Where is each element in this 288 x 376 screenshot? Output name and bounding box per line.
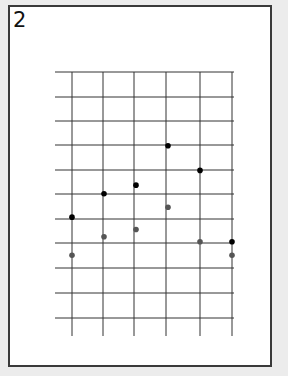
data-point: [101, 234, 107, 240]
plot-grid: [55, 72, 234, 336]
data-point: [165, 205, 171, 211]
data-point: [101, 191, 107, 197]
data-point: [165, 143, 171, 149]
data-point: [197, 168, 203, 174]
data-point: [229, 239, 235, 245]
data-point: [69, 214, 75, 220]
data-point: [133, 227, 139, 233]
data-point: [69, 252, 75, 258]
data-point: [133, 182, 139, 188]
data-point: [229, 252, 235, 258]
scatter-plot: [0, 0, 288, 376]
data-points: [69, 143, 235, 258]
data-point: [197, 239, 203, 245]
